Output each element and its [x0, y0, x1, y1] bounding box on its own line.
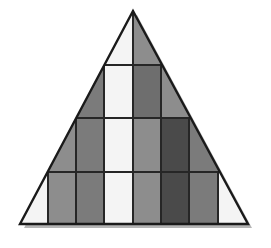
- cell-r4c7: [189, 172, 218, 224]
- cell-r3c7: [189, 118, 218, 172]
- shaded-cells-group: [20, 11, 248, 224]
- cell-r3c4: [104, 118, 133, 172]
- cell-r4c4: [104, 172, 133, 224]
- cell-r2c5: [133, 65, 161, 118]
- cell-r3c6: [161, 118, 189, 172]
- cell-r4c6: [161, 172, 189, 224]
- cell-r4c5: [133, 172, 161, 224]
- cell-r2c4: [104, 65, 133, 118]
- figure-canvas: [0, 0, 271, 248]
- cell-r3c5: [133, 118, 161, 172]
- cell-r4c3: [76, 172, 104, 224]
- cell-r3c3: [76, 118, 104, 172]
- cell-r4c2: [48, 172, 76, 224]
- triangle-figure: [0, 0, 271, 248]
